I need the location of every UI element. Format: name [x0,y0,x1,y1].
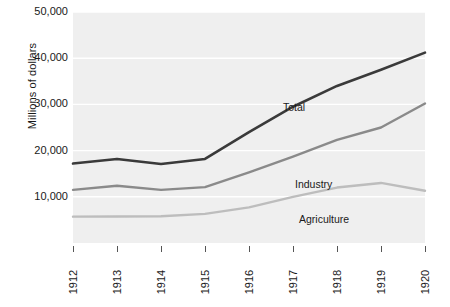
line-chart: Millions of dollars 10,00020,00030,00040… [0,0,450,307]
y-tick-label: 10,000 [10,190,68,202]
y-tick-label: 20,000 [10,144,68,156]
series-label-agriculture: Agriculture [299,213,349,225]
x-tick-label: 1918 [331,242,343,307]
x-tick-label: 1916 [243,242,255,307]
x-tick-label: 1919 [375,242,387,307]
y-tick-label: 50,000 [10,5,68,17]
x-tick-label: 1914 [155,242,167,307]
x-tick-label: 1915 [199,242,211,307]
series-label-industry: Industry [295,178,332,190]
y-axis-title: Millions of dollars [26,6,38,166]
x-tick-label: 1913 [111,242,123,307]
x-tick-label: 1912 [67,242,79,307]
series-label-total: Total [283,101,305,113]
y-tick-label: 40,000 [10,51,68,63]
y-tick-label: 30,000 [10,97,68,109]
x-tick-label: 1917 [287,242,299,307]
x-tick-label: 1920 [419,242,431,307]
